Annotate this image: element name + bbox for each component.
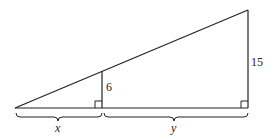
label-y: y [170,121,177,135]
hypotenuse [15,10,248,108]
label-large-height: 15 [251,55,263,69]
brace-x [16,113,102,121]
brace-y [104,113,248,121]
label-x: x [54,121,61,135]
label-small-height: 6 [106,80,112,94]
right-angle-mark-large [241,101,248,108]
right-angle-mark-small [95,101,102,108]
similar-triangles-diagram: 6 15 x y [0,0,277,140]
